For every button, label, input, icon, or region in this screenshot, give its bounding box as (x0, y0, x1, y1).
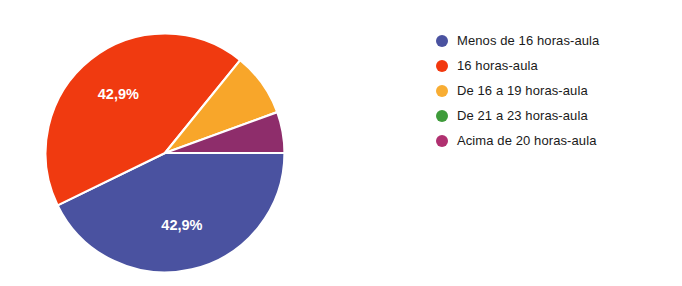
legend-item-label: De 16 a 19 horas-aula (457, 83, 588, 98)
legend-item[interactable]: De 16 a 19 horas-aula (436, 78, 666, 103)
legend-dot-icon (436, 110, 448, 122)
pie-slice-percentage-label: 42,9% (161, 217, 202, 233)
legend-dot-icon (436, 60, 448, 72)
legend-item[interactable]: Menos de 16 horas-aula (436, 28, 666, 53)
legend-item[interactable]: De 21 a 23 horas-aula (436, 103, 666, 128)
pie-slice-group (46, 34, 285, 273)
pie-chart-plot-area: 42,9%42,9% (40, 28, 290, 278)
legend-item[interactable]: 16 horas-aula (436, 53, 666, 78)
legend-dot-icon (436, 35, 448, 47)
pie-slice-percentage-label: 42,9% (98, 86, 139, 102)
legend-dot-icon (436, 85, 448, 97)
legend-item[interactable]: Acima de 20 horas-aula (436, 128, 666, 153)
pie-chart-svg: 42,9%42,9% (40, 28, 290, 278)
chart-legend: Menos de 16 horas-aula16 horas-aulaDe 16… (436, 28, 666, 153)
legend-item-label: De 21 a 23 horas-aula (457, 108, 588, 123)
legend-dot-icon (436, 135, 448, 147)
pie-chart-figure: 42,9%42,9% Menos de 16 horas-aula16 hora… (0, 0, 682, 286)
legend-item-label: Acima de 20 horas-aula (457, 133, 597, 148)
legend-item-label: Menos de 16 horas-aula (457, 33, 599, 48)
legend-item-label: 16 horas-aula (457, 58, 538, 73)
